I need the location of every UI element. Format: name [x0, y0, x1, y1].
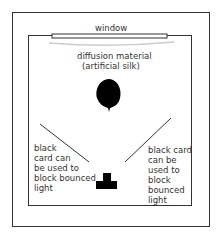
window-label: window — [95, 23, 127, 33]
right-caption-line: bounced — [148, 185, 192, 195]
left-caption-line: light — [34, 183, 96, 193]
right-caption-line: used to — [148, 165, 192, 175]
left-caption-line: black — [34, 143, 96, 153]
right-caption-line: block — [148, 175, 192, 185]
diffusion-label-line1: diffusion material — [77, 51, 152, 61]
right-card-caption: black card can be used to block bounced … — [148, 145, 192, 205]
camera-base — [96, 181, 117, 189]
right-caption-line: black card — [148, 145, 192, 155]
left-caption-line: card can — [34, 153, 96, 163]
diffusion-material-curve — [49, 42, 174, 45]
left-caption-line: be used to — [34, 163, 96, 173]
camera-top — [103, 173, 111, 181]
right-caption-line: light — [148, 195, 192, 205]
left-card-caption: black card can be used to block bounced … — [34, 143, 96, 193]
diffusion-label-line2: (artificial silk) — [82, 61, 140, 71]
right-caption-line: can be — [148, 155, 192, 165]
left-caption-line: block bounced — [34, 173, 96, 183]
window-shape — [52, 34, 167, 38]
subject-balloon-shape — [96, 79, 120, 112]
